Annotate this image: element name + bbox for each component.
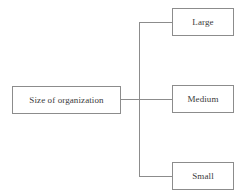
node-small: Small xyxy=(172,162,234,190)
node-medium: Medium xyxy=(172,85,234,113)
node-large-label: Large xyxy=(192,17,213,26)
node-large: Large xyxy=(172,8,234,36)
node-size-of-organization: Size of organization xyxy=(12,86,121,114)
node-small-label: Small xyxy=(192,171,214,180)
node-medium-label: Medium xyxy=(187,94,218,103)
connector-branch-small xyxy=(139,176,172,177)
diagram-canvas: Size of organization Large Medium Small xyxy=(0,0,246,194)
connector-vertical-trunk xyxy=(139,22,140,177)
connector-branch-large xyxy=(139,22,172,23)
node-root-label: Size of organization xyxy=(29,95,103,104)
connector-root-to-trunk xyxy=(121,99,172,100)
